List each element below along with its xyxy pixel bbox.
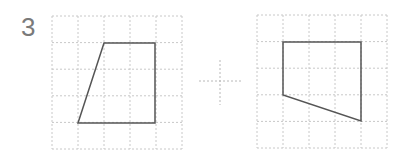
left-grid — [52, 16, 182, 149]
left-quadrilateral — [78, 43, 155, 123]
figure-canvas — [0, 0, 409, 158]
plus-operator-icon — [199, 60, 243, 105]
right-quadrilateral — [283, 42, 361, 121]
right-grid — [257, 15, 387, 148]
